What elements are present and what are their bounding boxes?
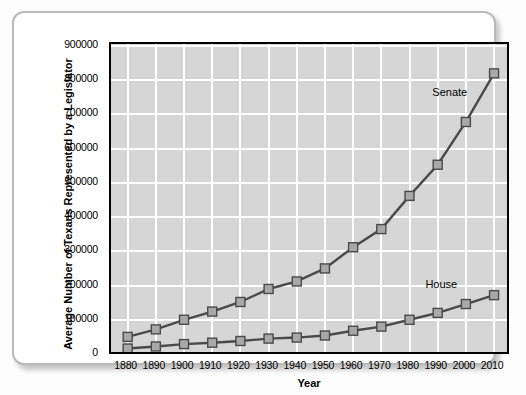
x-axis-tick: 1950 [312, 359, 335, 371]
chart-card: 0100000200000300000400000500000600000700… [12, 11, 496, 365]
x-axis-tick: 2010 [481, 359, 504, 371]
data-point-marker [236, 297, 245, 306]
x-axis-tick: 1990 [424, 359, 447, 371]
data-point-marker [433, 308, 442, 317]
data-point-marker [264, 284, 273, 293]
x-axis-title: Year [109, 377, 509, 389]
data-point-marker [151, 325, 160, 334]
x-axis-tick: 1980 [396, 359, 419, 371]
data-point-marker [377, 322, 386, 331]
x-axis-tick: 1940 [283, 359, 306, 371]
y-axis-tick: 0 [92, 346, 98, 358]
data-point-marker [461, 117, 470, 126]
series-label-senate: Senate [432, 86, 467, 98]
data-point-marker [151, 342, 160, 351]
data-point-marker [377, 225, 386, 234]
data-point-marker [264, 334, 273, 343]
x-axis-tick: 1920 [227, 359, 250, 371]
data-point-marker [405, 191, 414, 200]
data-point-marker [180, 315, 189, 324]
x-axis-tick: 1880 [114, 359, 137, 371]
data-point-marker [123, 344, 132, 353]
x-axis-tick: 1960 [340, 359, 363, 371]
chart-page: 0100000200000300000400000500000600000700… [0, 0, 526, 395]
y-axis-tick: 900000 [64, 38, 98, 50]
x-axis-tick: 1900 [171, 359, 194, 371]
data-point-marker [292, 277, 301, 286]
data-point-marker [180, 340, 189, 349]
data-point-marker [292, 333, 301, 342]
y-axis-labels: 0100000200000300000400000500000600000700… [14, 13, 106, 395]
data-point-marker [405, 315, 414, 324]
data-point-marker [236, 336, 245, 345]
x-axis-tick: 1930 [255, 359, 278, 371]
series-label-house: House [425, 278, 457, 290]
data-point-marker [320, 331, 329, 340]
y-axis-title: Average Number of Texans Represented by … [62, 54, 74, 354]
data-point-marker [320, 264, 329, 273]
data-point-marker [490, 69, 499, 78]
data-point-marker [433, 160, 442, 169]
data-point-marker [349, 243, 358, 252]
x-axis-tick: 1970 [368, 359, 391, 371]
series-line-senate [128, 73, 494, 337]
data-point-marker [208, 307, 217, 316]
data-point-marker [349, 326, 358, 335]
data-point-marker [123, 332, 132, 341]
data-point-marker [461, 300, 470, 309]
x-axis-tick: 2000 [453, 359, 476, 371]
x-axis-tick: 1890 [143, 359, 166, 371]
data-point-marker [208, 338, 217, 347]
x-axis-tick: 1910 [199, 359, 222, 371]
data-point-marker [490, 291, 499, 300]
